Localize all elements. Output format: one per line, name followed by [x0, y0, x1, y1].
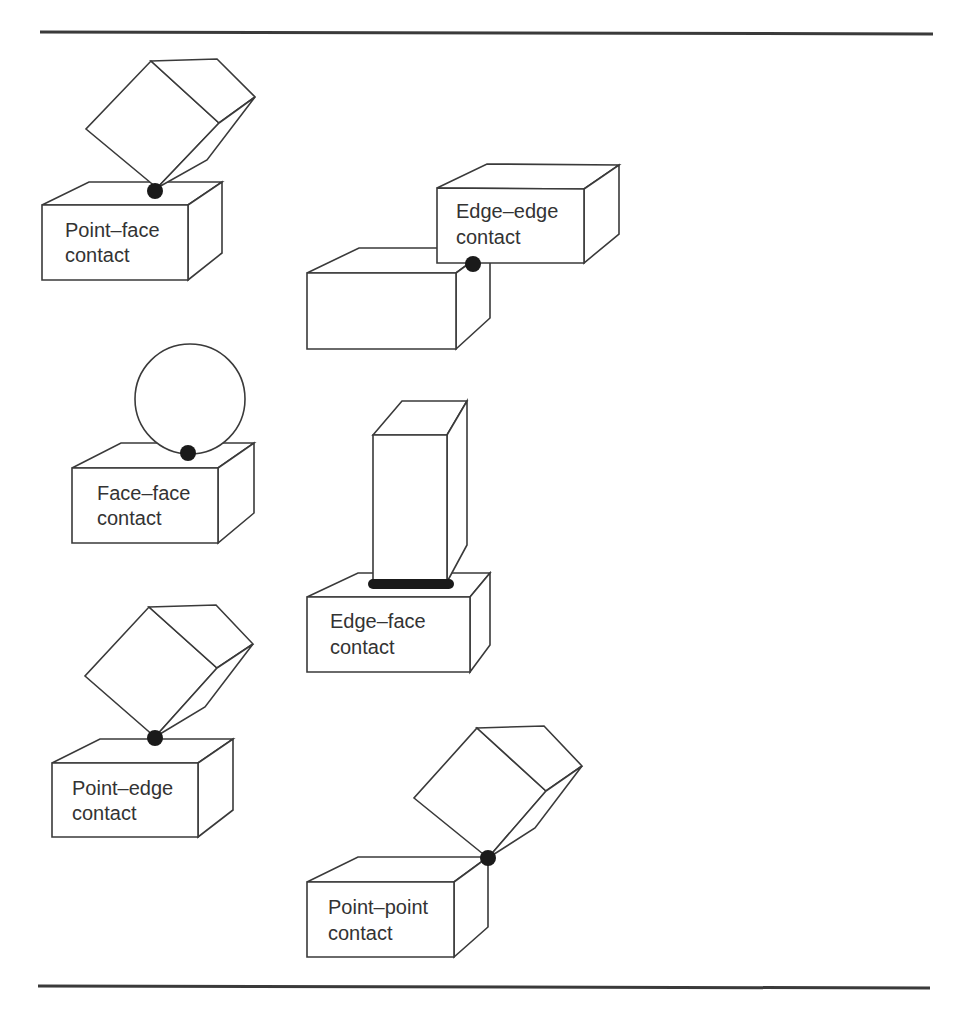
panel-point-point: Point–point contact — [307, 726, 582, 957]
box-front-face — [307, 597, 470, 672]
top-rule — [40, 32, 933, 34]
bottom-rule — [38, 986, 930, 988]
panel-face-face: Face–face contact — [72, 344, 254, 543]
contact-point-dot — [147, 183, 163, 199]
panel-label-line2: contact — [330, 636, 395, 658]
panel-label-line1: Point–point — [328, 896, 429, 918]
panel-label-line1: Edge–face — [330, 610, 426, 632]
box-front-face — [307, 273, 456, 349]
tall-block — [373, 401, 467, 582]
panel-label-line2: contact — [65, 244, 130, 266]
contact-point-dot — [180, 445, 196, 461]
contact-point-dot — [147, 730, 163, 746]
panel-label-line2: contact — [456, 226, 521, 248]
block-front-face — [373, 435, 447, 582]
panel-label-line1: Point–edge — [72, 777, 173, 799]
box-front-face — [307, 882, 454, 957]
panel-point-edge: Point–edge contact — [52, 605, 253, 837]
tilted-cube — [86, 59, 255, 188]
sphere — [135, 344, 245, 454]
contact-types-diagram: Point–face contact Edge–edge contact Fac… — [0, 0, 971, 1016]
box-front-face — [72, 468, 218, 543]
panel-edge-face: Edge–face contact — [307, 401, 490, 672]
panel-label-line2: contact — [72, 802, 137, 824]
box-front-face — [42, 205, 188, 280]
panel-label-line1: Face–face — [97, 482, 190, 504]
contact-point-dot — [480, 850, 496, 866]
contact-point-dot — [465, 256, 481, 272]
tilted-cube — [85, 605, 253, 737]
panel-edge-edge: Edge–edge contact — [307, 164, 619, 349]
box-front-face — [52, 763, 198, 837]
panel-label-line1: Point–face — [65, 219, 160, 241]
panel-label-line2: contact — [328, 922, 393, 944]
panel-label-line2: contact — [97, 507, 162, 529]
tilted-cube — [414, 726, 582, 858]
panel-point-face: Point–face contact — [42, 59, 255, 280]
panel-label-line1: Edge–edge — [456, 200, 558, 222]
